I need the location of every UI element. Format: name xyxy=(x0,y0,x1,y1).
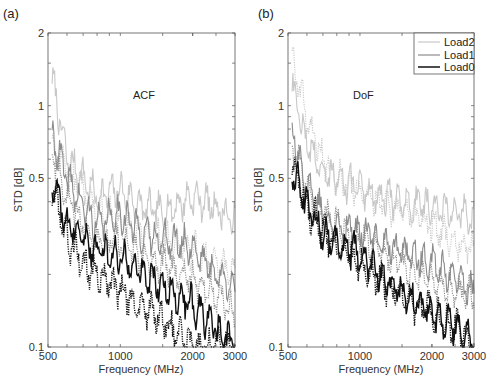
panel-a: (a) ACF 5001000200030000.10.512 Frequenc… xyxy=(3,6,247,375)
series-load0-solid xyxy=(52,180,235,347)
y-tick-label: 0.5 xyxy=(29,172,44,184)
panel-a-title: ACF xyxy=(133,89,155,101)
x-tick-label: 2000 xyxy=(180,350,204,362)
y-tick-label: 1 xyxy=(278,100,284,112)
x-tick-label: 1000 xyxy=(348,350,372,362)
panel-a-label: (a) xyxy=(3,6,19,21)
figure-canvas: (a) ACF 5001000200030000.10.512 Frequenc… xyxy=(0,0,492,391)
legend: Load2 Load1 Load0 xyxy=(414,33,475,74)
legend-label-load2: Load2 xyxy=(444,36,475,48)
x-tick-label: 3000 xyxy=(462,350,486,362)
y-tick-label: 2 xyxy=(38,27,44,39)
panel-b-curves xyxy=(292,47,474,347)
panel-b-xlabel: Frequency (MHz) xyxy=(339,363,424,375)
panel-b: (b) DoF 5001000200030000.10.512 Frequenc… xyxy=(252,6,486,375)
x-tick-label: 2000 xyxy=(420,350,444,362)
panel-a-xlabel: Frequency (MHz) xyxy=(99,363,184,375)
panel-b-label: (b) xyxy=(258,6,274,21)
legend-label-load1: Load1 xyxy=(444,49,475,61)
panel-b-ylabel: STD [dB] xyxy=(252,168,264,213)
series-load2-solid xyxy=(292,73,474,235)
y-tick-label: 1 xyxy=(38,100,44,112)
legend-label-load0: Load0 xyxy=(444,61,475,73)
x-tick-label: 3000 xyxy=(223,350,247,362)
panel-a-curves xyxy=(52,67,235,347)
y-tick-label: 0.1 xyxy=(269,341,284,353)
y-tick-label: 0.1 xyxy=(29,341,44,353)
panel-a-ylabel: STD [dB] xyxy=(12,168,24,213)
y-tick-label: 2 xyxy=(278,27,284,39)
x-tick-label: 1000 xyxy=(108,350,132,362)
panel-b-title: DoF xyxy=(353,89,374,101)
y-tick-label: 0.5 xyxy=(269,172,284,184)
